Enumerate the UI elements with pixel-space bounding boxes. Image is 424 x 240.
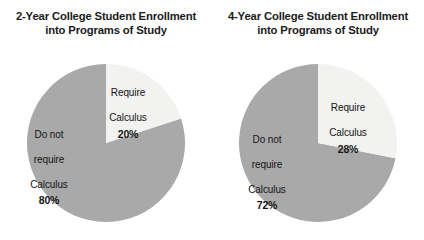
chart-title-line-1: 2-Year College Student Enrollment	[16, 10, 196, 22]
chart-title-line-2: into Programs of Study	[0, 23, 212, 37]
pie-wrap-4-year: Require Calculus 28% Do not require Calc…	[212, 62, 424, 232]
chart-title-line-2: into Programs of Study	[212, 23, 424, 37]
pie-wrap-2-year: Require Calculus 20% Do not require Calc…	[0, 62, 212, 232]
two-pie-chart-figure: 2-Year College Student Enrollment into P…	[0, 0, 424, 240]
pie-chart-2-year	[26, 62, 186, 224]
pie-slice-require-calculus-4-year[interactable]	[318, 64, 397, 158]
pie-chart-4-year	[238, 62, 398, 224]
chart-title-4-year: 4-Year College Student Enrollment into P…	[212, 9, 424, 37]
chart-panel-2-year: 2-Year College Student Enrollment into P…	[0, 0, 212, 240]
chart-title-2-year: 2-Year College Student Enrollment into P…	[0, 9, 212, 37]
chart-title-line-1: 4-Year College Student Enrollment	[228, 10, 408, 22]
chart-panel-4-year: 4-Year College Student Enrollment into P…	[212, 0, 424, 240]
